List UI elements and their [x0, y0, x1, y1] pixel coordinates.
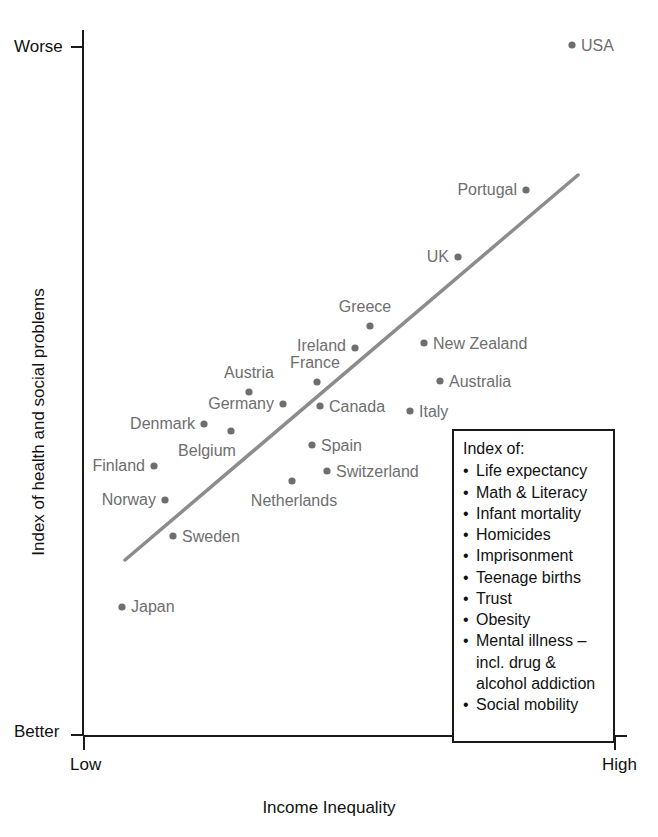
data-point-label: New Zealand — [433, 336, 527, 352]
data-point-label: Portugal — [457, 182, 517, 198]
data-point-label: Austria — [224, 365, 274, 381]
x-axis-title: Income Inequality — [0, 798, 658, 818]
data-point[interactable] — [454, 253, 461, 260]
legend-item: Infant mortality — [463, 503, 607, 524]
data-point-label: Finland — [93, 458, 145, 474]
data-point-label: Ireland — [297, 338, 346, 354]
data-point-label: Japan — [131, 599, 175, 615]
y-axis-top-label: Worse — [14, 37, 63, 57]
legend-item: Life expectancy — [463, 460, 607, 481]
legend-item: Obesity — [463, 609, 607, 630]
data-point[interactable] — [169, 532, 176, 539]
data-point-label: Spain — [321, 438, 362, 454]
data-point-label: Australia — [449, 374, 511, 390]
data-point-label: UK — [427, 249, 449, 265]
data-point[interactable] — [420, 339, 427, 346]
data-point[interactable] — [279, 400, 286, 407]
data-point-label: Canada — [329, 399, 385, 415]
legend-item: Mental illness – incl. drug & alcohol ad… — [463, 630, 607, 694]
data-point-label: Belgium — [178, 443, 236, 459]
data-point-label: Norway — [102, 492, 156, 508]
y-axis-title: Index of health and social problems — [29, 252, 49, 592]
data-point-label: Italy — [419, 404, 448, 420]
x-axis-left-label: Low — [70, 755, 101, 775]
data-point-label: Greece — [339, 299, 391, 315]
data-point-label: Germany — [208, 396, 274, 412]
data-point[interactable] — [150, 462, 157, 469]
legend-item: Math & Literacy — [463, 482, 607, 503]
data-point-label: Sweden — [182, 529, 240, 545]
data-point[interactable] — [436, 377, 443, 384]
data-point[interactable] — [161, 496, 168, 503]
x-axis-right-label: High — [602, 755, 637, 775]
data-point-label: Switzerland — [336, 464, 419, 480]
legend-item: Social mobility — [463, 694, 607, 715]
data-point[interactable] — [313, 378, 320, 385]
data-point-label: USA — [581, 38, 614, 54]
data-point[interactable] — [200, 420, 207, 427]
data-point-label: Netherlands — [251, 493, 337, 509]
legend-item: Imprisonment — [463, 545, 607, 566]
data-point[interactable] — [323, 467, 330, 474]
data-point[interactable] — [351, 344, 358, 351]
data-point[interactable] — [288, 477, 295, 484]
legend-item: Trust — [463, 588, 607, 609]
y-axis-bottom-label: Better — [14, 722, 59, 742]
legend: Index of: Life expectancyMath & Literacy… — [452, 429, 615, 743]
data-point[interactable] — [522, 186, 529, 193]
data-point[interactable] — [118, 603, 125, 610]
data-point-label: Denmark — [130, 416, 195, 432]
data-point[interactable] — [316, 402, 323, 409]
data-point[interactable] — [366, 322, 373, 329]
data-point[interactable] — [308, 441, 315, 448]
legend-title: Index of: — [463, 438, 607, 459]
data-point[interactable] — [227, 427, 234, 434]
data-point[interactable] — [568, 41, 575, 48]
legend-item: Homicides — [463, 524, 607, 545]
data-point-label: France — [290, 355, 340, 371]
data-point[interactable] — [406, 407, 413, 414]
legend-item: Teenage births — [463, 567, 607, 588]
legend-list: Life expectancyMath & LiteracyInfant mor… — [463, 460, 607, 715]
scatter-chart: Worse Better Low High Income Inequality … — [0, 0, 658, 837]
